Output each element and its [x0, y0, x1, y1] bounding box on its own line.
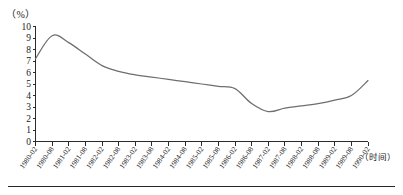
y-tick-label: 5 — [26, 79, 31, 89]
y-tick-label: 9 — [26, 33, 31, 43]
y-axis-tick-labels: 012345678910 — [22, 22, 32, 147]
data-series-line — [36, 35, 369, 112]
y-tick-label: 7 — [26, 56, 31, 66]
y-tick-label: 8 — [26, 45, 31, 55]
y-tick-label: 10 — [22, 22, 32, 32]
y-tick-label: 6 — [26, 68, 31, 78]
x-axis-unit-label: （时间） — [360, 150, 396, 162]
bottom-divider — [8, 186, 395, 187]
chart-figure: （%） 012345678910 1980-021980-081981-0219… — [0, 0, 403, 195]
y-tick-label: 4 — [26, 91, 31, 101]
y-tick-label: 1 — [26, 125, 31, 135]
line-chart-plot: 012345678910 1980-021980-081981-021981-0… — [0, 0, 403, 195]
y-tick-label: 3 — [26, 102, 31, 112]
y-tick-label: 2 — [26, 114, 31, 124]
x-axis-tick-labels: 1980-021980-081981-021981-081982-021982-… — [18, 145, 372, 171]
x-axis-tick-marks — [36, 142, 369, 146]
